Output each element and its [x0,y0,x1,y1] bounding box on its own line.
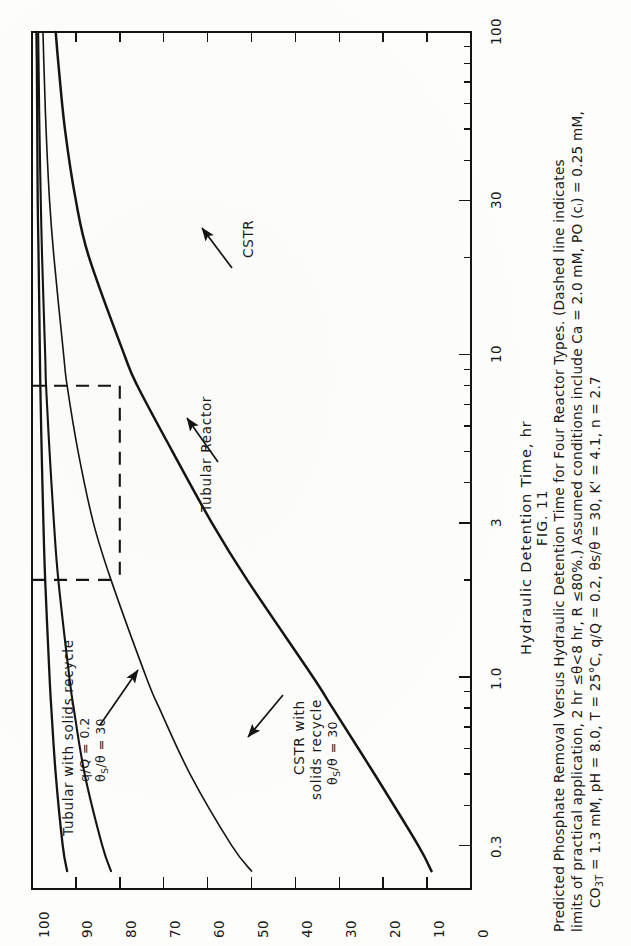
label-cstr: CSTR [242,220,256,258]
x-tick-3 [459,522,471,524]
x-tick-minor-60 [464,103,471,104]
x-tick-0.3 [459,845,471,847]
x-tick-minor-0.6 [464,748,471,749]
figure-root: 0.31.031030100 1009080706050403020100 Hy… [0,0,631,946]
x-tick-minor-0.5 [464,773,471,774]
plot-frame-bottom [31,888,472,890]
x-tick-minor-0.4 [464,805,471,806]
x-tick-10 [459,354,471,356]
y-axis-label-20: 20 [389,920,403,938]
y-axis-label-40: 40 [301,920,315,938]
y-tick-100 [31,31,33,42]
y-tick-40 [295,31,297,42]
scan-grain-overlay [0,0,631,946]
y-tick-bottom-30 [339,877,341,888]
label-cstr-recycle-theta: θS/θ = 30 [327,721,342,785]
data-curves [0,0,631,946]
plot-frame-left [31,31,33,890]
theta-glyph: θ [93,774,108,782]
y-tick-bottom-20 [382,877,384,888]
curve-cstr [56,32,432,871]
label-tubular-recycle-qq: q/Q = 0.2 [79,717,92,782]
arrow-to-cstr [202,228,232,268]
x-tick-minor-70 [464,81,471,82]
x-axis-label-10: 10 [490,345,504,363]
x-tick-30 [459,200,471,202]
caption-line-2: limits of practical application, 2 hr ≤θ… [571,111,585,932]
y-axis-label-60: 60 [213,920,227,938]
x-axis-title: Hydraulic Detention Time, hr [519,420,534,655]
caption-co3-sub2: T [594,875,605,881]
y-tick-bottom-0 [470,877,472,888]
y-tick-80 [119,31,121,42]
y-axis-label-100: 100 [38,911,52,938]
x-axis-label-3: 3 [490,518,504,527]
y-axis-label-70: 70 [169,920,183,938]
x-tick-minor-0.8 [464,707,471,708]
y-tick-60 [207,31,209,42]
theta-glyph-2: θ [325,777,340,785]
x-tick-minor-9 [464,369,471,370]
x-tick-1.0 [459,676,471,678]
caption-co3-post: = 1.3 mM, pH = 8.0, T = 25°C, q/Q = 0.2,… [587,376,603,874]
y-axis-label-30: 30 [345,920,359,938]
y-tick-bottom-10 [426,877,428,888]
y-tick-10 [426,31,428,42]
label-tubular-recycle-theta: θS/θ = 30 [95,718,110,782]
x-tick-minor-50 [464,128,471,129]
x-axis-label-0.3: 0.3 [490,835,504,858]
x-tick-minor-0.9 [464,691,471,692]
annotation-arrows [0,0,631,946]
caption-co3-sub1: 3 [594,881,605,887]
caption-co3-pre: CO [587,887,603,908]
theta-subscript-2: S [332,771,342,777]
label-cstr-with-solids-recycle-l2: solids recycle [310,699,324,800]
theta-subscript: S [100,768,110,774]
x-axis-label-100: 100 [490,18,504,45]
y-axis-label-10: 10 [433,920,447,938]
y-tick-bottom-80 [119,877,121,888]
y-tick-bottom-70 [163,877,165,888]
y-tick-70 [163,31,165,42]
x-tick-minor-40 [464,160,471,161]
x-tick-minor-6 [464,425,471,426]
y-tick-bottom-90 [75,877,77,888]
caption-line-3: CO3T = 1.3 mM, pH = 8.0, T = 25°C, q/Q =… [589,376,605,908]
x-tick-minor-2 [464,579,471,580]
label-cstr-with-solids-recycle-l1: CSTR with [293,700,307,775]
y-axis-label-0: 0 [477,929,491,938]
label-tubular-reactor: Tubular Reactor [200,396,214,512]
x-tick-minor-0.7 [464,726,471,727]
y-tick-bottom-40 [295,877,297,888]
caption-line-1: Predicted Phosphate Removal Versus Hydra… [553,159,567,932]
x-tick-minor-4 [464,482,471,483]
x-axis-label-30: 30 [490,191,504,209]
practical-application-box [32,386,120,580]
arrow-to-cstr-recycle [248,695,283,737]
y-tick-bottom-100 [31,877,33,888]
y-tick-20 [382,31,384,42]
theta-ratio-2: /θ = 30 [325,721,340,771]
x-tick-minor-8 [464,385,471,386]
x-tick-minor-5 [464,451,471,452]
y-tick-30 [339,31,341,42]
theta-ratio: /θ = 30 [93,718,108,768]
y-axis-label-50: 50 [257,920,271,938]
y-axis-label-80: 80 [125,920,139,938]
y-tick-90 [75,31,77,42]
x-tick-minor-7 [464,404,471,405]
x-tick-minor-80 [464,63,471,64]
y-tick-bottom-50 [251,877,253,888]
x-tick-100 [459,31,471,33]
x-tick-minor-90 [464,46,471,47]
y-tick-50 [251,31,253,42]
x-axis-label-1.0: 1.0 [490,667,504,690]
y-tick-bottom-60 [207,877,209,888]
y-axis-label-90: 90 [81,920,95,938]
label-tubular-with-solids-recycle: Tubular with solids recycle [62,639,76,836]
figure-number: FIG. 11 [535,489,549,546]
arrow-to-tubular-recycle [100,670,138,725]
x-tick-minor-20 [464,257,471,258]
